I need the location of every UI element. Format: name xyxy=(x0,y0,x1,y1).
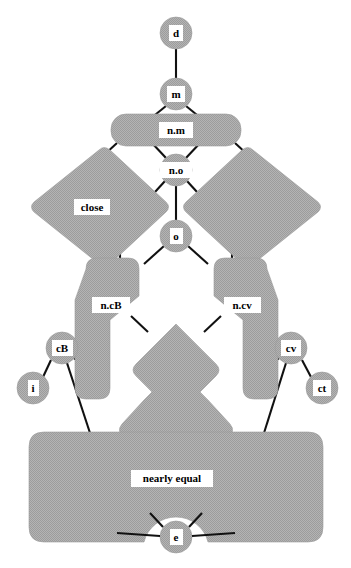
label-n-o: n.o xyxy=(169,164,184,176)
label-close: close xyxy=(81,201,104,213)
node-n-cv-shape xyxy=(214,258,278,399)
edge-o-ncv xyxy=(188,246,208,264)
label-i: i xyxy=(31,382,34,394)
lattice-canvas: d m n.m n.o close o n.cB n.cv cB xyxy=(0,0,351,568)
label-e: e xyxy=(174,531,179,543)
label-ct: ct xyxy=(318,382,327,394)
label-cB: cB xyxy=(56,342,69,354)
edge-no-close xyxy=(155,181,165,192)
node-n-cB-shape xyxy=(75,258,139,399)
edge-no-right xyxy=(187,181,197,192)
label-m: m xyxy=(171,88,180,100)
edge-cB-i xyxy=(43,360,51,377)
node-center-blob[interactable] xyxy=(119,324,232,438)
edge-cv-ct xyxy=(302,360,311,377)
label-o: o xyxy=(173,230,179,242)
lattice-diagram: d m n.m n.o close o n.cB n.cv cB xyxy=(0,0,351,568)
label-d: d xyxy=(173,27,179,39)
label-n-cB: n.cB xyxy=(100,299,122,311)
edge-ncB-blob xyxy=(131,316,148,332)
node-right-diamond[interactable] xyxy=(184,148,321,267)
label-cv: cv xyxy=(286,342,297,354)
edge-ncv-blob xyxy=(204,316,221,332)
node-center-blob-shape xyxy=(119,324,232,438)
node-n-cB[interactable] xyxy=(75,258,139,399)
node-right-diamond-shape xyxy=(184,148,321,267)
label-n-cv: n.cv xyxy=(232,299,252,311)
label-nearly-equal: nearly equal xyxy=(143,472,201,484)
label-n-m: n.m xyxy=(167,124,185,136)
edge-o-ncB xyxy=(144,246,164,264)
node-n-cv[interactable] xyxy=(214,258,278,399)
